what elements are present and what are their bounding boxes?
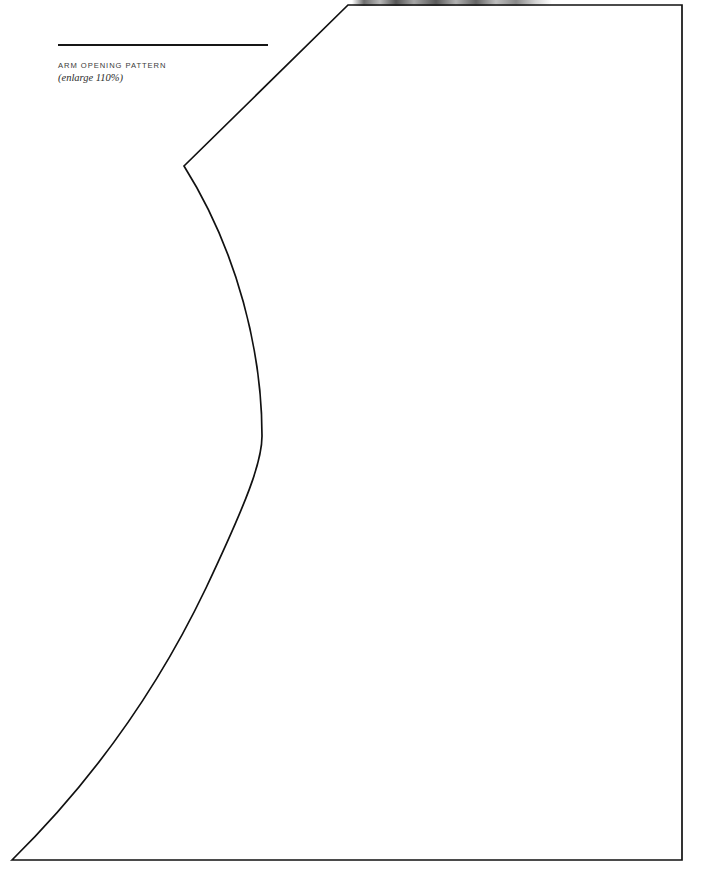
pattern-sheet: ARM OPENING PATTERN (enlarge 110%): [0, 0, 704, 873]
sheet-background: [0, 0, 704, 873]
caption-rule: [58, 44, 268, 46]
caption-title: ARM OPENING PATTERN: [58, 60, 318, 71]
caption: ARM OPENING PATTERN (enlarge 110%): [58, 44, 318, 84]
arm-opening-pattern-drawing: [0, 0, 704, 873]
caption-note: (enlarge 110%): [58, 72, 318, 84]
